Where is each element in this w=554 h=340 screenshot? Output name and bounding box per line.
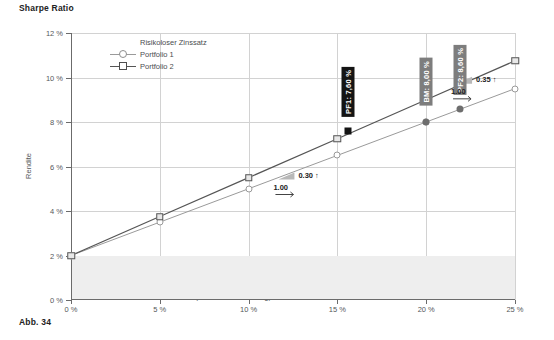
gridline-vertical xyxy=(515,33,516,300)
marker-portfolio-2 xyxy=(67,252,75,260)
x-tick xyxy=(249,300,250,304)
x-tick-label: 25 % xyxy=(506,305,523,314)
x-tick-label: 5 % xyxy=(153,305,166,314)
marker-portfolio-1 xyxy=(245,185,252,192)
highlight-point-bm xyxy=(423,119,430,126)
legend-label-portfolio-1: Portfolio 1 xyxy=(140,50,174,59)
y-tick-label: 4 % xyxy=(50,207,63,216)
x-tick-label: 15 % xyxy=(329,305,346,314)
highlight-point-pf1 xyxy=(345,127,352,134)
x-tick-label: 0 % xyxy=(65,305,78,314)
y-tick-label: 2 % xyxy=(50,251,63,260)
x-tick xyxy=(426,300,427,304)
legend: Risikoloser Zinssatz Portfolio 1 Portfol… xyxy=(110,36,207,72)
circle-marker-icon xyxy=(110,48,136,60)
page-title: Sharpe Ratio xyxy=(19,3,74,13)
x-tick-label: 10 % xyxy=(240,305,257,314)
legend-item-risk-free: Risikoloser Zinssatz xyxy=(110,36,207,48)
slope-portfolio-2-run-label: 1.00 xyxy=(451,87,466,96)
slope-portfolio-2-rise-label: 0.35 ↑ xyxy=(476,75,496,84)
series-lines xyxy=(71,33,515,300)
figure-sharpe-ratio: Sharpe Ratio Rendite Risiko (Standardabw… xyxy=(0,0,554,340)
x-tick xyxy=(160,300,161,304)
legend-label-risk-free: Risikoloser Zinssatz xyxy=(140,38,207,47)
x-tick-label: 20 % xyxy=(418,305,435,314)
highlight-point-pf2 xyxy=(456,105,463,112)
marker-portfolio-1 xyxy=(334,152,341,159)
y-tick-label: 12 % xyxy=(46,29,63,38)
callout-pf1: PF1: 7,60 % xyxy=(342,67,355,117)
callout-bm: BM: 8,00 % xyxy=(420,58,433,106)
x-tick xyxy=(337,300,338,304)
figure-caption: Abb. 34 xyxy=(19,317,51,327)
marker-portfolio-1 xyxy=(512,85,519,92)
run-arrow xyxy=(275,192,293,197)
marker-portfolio-2 xyxy=(245,174,253,182)
y-tick-label: 8 % xyxy=(50,118,63,127)
slope-portfolio-1-rise-label: 0.30 ↑ xyxy=(298,171,318,180)
legend-label-portfolio-2: Portfolio 2 xyxy=(140,62,174,71)
slope-portfolio-1-run-label: 1.00 xyxy=(273,183,288,192)
slope-wedge xyxy=(278,173,294,180)
y-tick-label: 6 % xyxy=(50,162,63,171)
y-tick-label: 10 % xyxy=(46,73,63,82)
risk-free-key-icon xyxy=(110,36,136,48)
square-marker-icon xyxy=(110,60,136,72)
y-axis-title: Rendite xyxy=(24,153,33,179)
legend-item-portfolio-2: Portfolio 2 xyxy=(110,60,207,72)
x-tick xyxy=(71,300,72,304)
marker-portfolio-2 xyxy=(156,213,164,221)
plot-area: 0 %2 %4 %6 %8 %10 %12 %0 %5 %10 %15 %20 … xyxy=(71,33,515,300)
x-tick xyxy=(515,300,516,304)
legend-item-portfolio-1: Portfolio 1 xyxy=(110,48,207,60)
marker-portfolio-2 xyxy=(334,135,342,143)
run-arrow xyxy=(453,96,471,101)
y-tick-label: 0 % xyxy=(50,296,63,305)
marker-portfolio-2 xyxy=(511,57,519,65)
